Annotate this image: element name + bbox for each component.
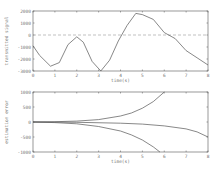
y-tick-label: -500 <box>20 135 31 140</box>
y-tick-label: 500 <box>23 105 31 110</box>
y-tick-label: -1000 <box>17 45 31 50</box>
series-line <box>33 13 208 71</box>
bottom-plot: 01234567810005000-500-1000time(s)estimat… <box>4 90 210 164</box>
x-tick-label: 0 <box>32 73 35 78</box>
x-tick-label: 1 <box>54 73 57 78</box>
top-plot: 012345678200010000-1000-2000-3000time(s)… <box>4 9 210 83</box>
series-line <box>33 122 160 152</box>
x-axis-label: time(s) <box>111 159 130 164</box>
y-axis-label: estimation error <box>4 100 9 144</box>
x-tick-label: 6 <box>163 154 166 159</box>
y-tick-label: -3000 <box>17 69 31 74</box>
x-tick-label: 6 <box>163 73 166 78</box>
x-axis-label: time(s) <box>111 78 130 83</box>
series-line <box>33 92 164 122</box>
x-tick-label: 3 <box>97 73 100 78</box>
series-line <box>33 122 208 137</box>
y-tick-label: 2000 <box>20 9 31 14</box>
x-tick-label: 5 <box>141 73 144 78</box>
x-tick-label: 2 <box>75 154 78 159</box>
y-tick-label: -2000 <box>17 57 31 62</box>
y-tick-label: -1000 <box>17 150 31 155</box>
x-tick-label: 5 <box>141 154 144 159</box>
y-tick-label: 1000 <box>20 21 31 26</box>
y-tick-label: 0 <box>28 120 31 125</box>
y-tick-label: 0 <box>28 33 31 38</box>
x-tick-label: 3 <box>97 154 100 159</box>
x-tick-label: 8 <box>207 73 210 78</box>
x-tick-label: 2 <box>75 73 78 78</box>
x-tick-label: 7 <box>185 154 188 159</box>
y-axis-label: transmitted signal <box>4 16 9 65</box>
x-tick-label: 7 <box>185 73 188 78</box>
y-tick-label: 1000 <box>20 90 31 95</box>
x-tick-label: 8 <box>207 154 210 159</box>
chart-figure: 012345678200010000-1000-2000-3000time(s)… <box>0 0 218 171</box>
x-tick-label: 1 <box>54 154 57 159</box>
x-tick-label: 0 <box>32 154 35 159</box>
